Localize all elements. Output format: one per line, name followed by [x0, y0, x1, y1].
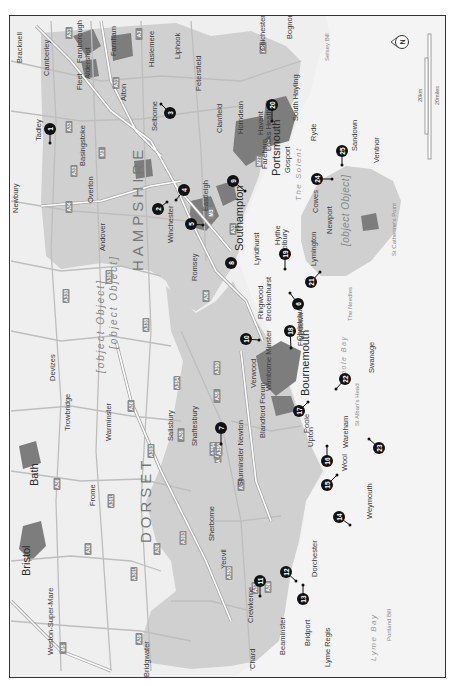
marker-8[interactable]: 8 [225, 257, 237, 269]
svg-text:A338: A338 [143, 319, 149, 331]
svg-text:Chard: Chard [248, 649, 257, 669]
svg-text:Bath: Bath [28, 463, 40, 486]
map-canvas[interactable]: A33 A31 A31 A3 M3 M3 A34 A33 A303 A338 A… [10, 16, 446, 678]
svg-text:Weymouth: Weymouth [365, 483, 374, 519]
svg-text:Crewkerne: Crewkerne [246, 587, 255, 623]
svg-text:11: 11 [257, 577, 264, 584]
svg-text:Wool: Wool [340, 454, 349, 471]
svg-text:Newport: Newport [325, 205, 334, 234]
svg-text:Winchester: Winchester [166, 205, 175, 243]
svg-text:St Alban's Head: St Alban's Head [354, 383, 360, 426]
svg-text:Lyme Bay: Lyme Bay [369, 614, 378, 661]
svg-text:Alton: Alton [119, 84, 128, 101]
svg-text:A30: A30 [85, 544, 91, 553]
svg-text:Chichester: Chichester [258, 16, 267, 51]
svg-text:St Catherine's Point: St Catherine's Point [391, 203, 397, 256]
svg-text:Lyndhurst: Lyndhurst [252, 231, 261, 265]
svg-text:Swanage: Swanage [367, 342, 376, 373]
svg-text:20km: 20km [417, 88, 423, 102]
map-frame: A33 A31 A31 A3 M3 M3 A34 A33 A303 A338 A… [9, 15, 446, 678]
svg-text:Wimborne Minster: Wimborne Minster [264, 330, 273, 391]
region-salisbury: [object Object] [95, 279, 106, 374]
svg-text:Southampton: Southampton [233, 186, 245, 251]
svg-text:Portland Bill: Portland Bill [386, 609, 392, 641]
svg-text:A350: A350 [214, 362, 220, 374]
svg-text:Newbury: Newbury [11, 183, 20, 213]
svg-text:A34: A34 [66, 202, 72, 211]
svg-text:Trowbridge: Trowbridge [63, 394, 72, 431]
svg-text:Dorchester: Dorchester [310, 540, 319, 577]
svg-text:Ferndown: Ferndown [296, 313, 305, 346]
svg-text:A361: A361 [131, 568, 137, 580]
svg-text:20miles: 20miles [434, 86, 440, 105]
svg-text:Sandown: Sandown [350, 120, 359, 151]
svg-text:Haslemere: Haslemere [147, 31, 156, 67]
svg-text:Camberley: Camberley [42, 39, 51, 76]
svg-text:25: 25 [339, 147, 346, 155]
svg-text:A33: A33 [66, 122, 72, 131]
svg-text:M3: M3 [99, 149, 105, 156]
svg-text:Sturminster Newton: Sturminster Newton [236, 420, 245, 486]
region-plain: [object Object] [108, 255, 119, 350]
svg-text:Beaminster: Beaminster [278, 617, 287, 655]
svg-text:12: 12 [283, 568, 290, 576]
svg-text:16: 16 [324, 457, 331, 465]
svg-text:Ryde: Ryde [309, 123, 318, 141]
svg-text:Salisbury: Salisbury [166, 410, 175, 441]
svg-text:Weston-Super-Mare: Weston-Super-Mare [46, 588, 55, 655]
svg-text:7: 7 [218, 426, 225, 430]
svg-text:Shaftesbury: Shaftesbury [190, 406, 199, 446]
svg-text:Warminster: Warminster [104, 402, 113, 441]
svg-text:Ventnor: Ventnor [372, 137, 381, 163]
svg-text:Horndean: Horndean [236, 101, 245, 134]
county-hampshire: HAMPSHIRE [129, 146, 146, 271]
svg-text:Lyme Regis: Lyme Regis [323, 627, 332, 667]
svg-text:A33: A33 [71, 166, 77, 175]
svg-text:A303: A303 [180, 532, 186, 544]
svg-text:Lymington: Lymington [309, 232, 318, 266]
svg-text:Yeovil: Yeovil [219, 549, 228, 569]
svg-text:2: 2 [155, 207, 162, 211]
svg-text:14: 14 [336, 513, 343, 521]
svg-text:Farnham: Farnham [109, 26, 118, 56]
svg-text:A31: A31 [66, 28, 72, 37]
svg-text:Bognor Regis: Bognor Regis [285, 16, 294, 39]
svg-text:23: 23 [376, 444, 383, 452]
svg-text:Devizes: Devizes [48, 354, 57, 381]
svg-text:Blandford Forum: Blandford Forum [258, 382, 267, 438]
svg-text:The Solent: The Solent [294, 147, 303, 201]
svg-text:M5: M5 [60, 644, 66, 651]
svg-text:South Hayling: South Hayling [291, 74, 300, 121]
svg-text:6: 6 [295, 302, 302, 306]
svg-text:Aldershot: Aldershot [83, 46, 92, 79]
svg-text:Verwood: Verwood [249, 359, 258, 388]
svg-text:The Needles: The Needles [347, 287, 353, 321]
svg-text:A35: A35 [214, 391, 220, 400]
svg-text:Selsey Bill: Selsey Bill [324, 33, 330, 61]
svg-text:A35: A35 [178, 430, 184, 439]
svg-text:Tadley: Tadley [34, 119, 43, 141]
svg-text:Sherborne: Sherborne [207, 506, 216, 541]
svg-text:22: 22 [342, 375, 349, 383]
svg-text:Overton: Overton [86, 176, 95, 203]
svg-text:19: 19 [282, 250, 289, 258]
svg-text:N: N [399, 39, 406, 44]
svg-text:Clanfield: Clanfield [215, 104, 224, 133]
svg-text:Bristol: Bristol [20, 545, 32, 576]
svg-text:A36: A36 [203, 291, 209, 300]
svg-text:Wareham: Wareham [341, 416, 350, 448]
svg-text:A30: A30 [154, 544, 160, 553]
svg-text:Petersfield: Petersfield [194, 56, 203, 91]
svg-text:A36: A36 [128, 401, 134, 410]
svg-text:Ringwood: Ringwood [256, 286, 265, 319]
svg-text:4: 4 [181, 188, 188, 192]
svg-text:Frome: Frome [88, 484, 97, 506]
svg-text:Bridport: Bridport [303, 619, 312, 646]
svg-text:Brockenhurst: Brockenhurst [264, 276, 273, 321]
svg-text:Bracknell: Bracknell [15, 32, 24, 63]
svg-text:20: 20 [269, 101, 276, 109]
svg-text:Eastleigh: Eastleigh [201, 180, 210, 211]
region-isle-of-wight: [object Object] [340, 175, 351, 247]
svg-text:5: 5 [188, 222, 195, 226]
svg-text:Gosport: Gosport [283, 145, 292, 173]
